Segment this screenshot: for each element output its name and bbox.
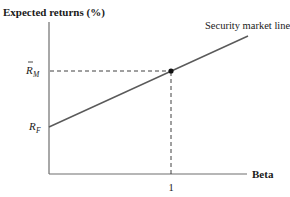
y-axis-title: Expected returns (%)	[3, 6, 105, 19]
rf-label: R F	[28, 120, 41, 135]
sml-chart: Expected returns (%) Security market lin…	[0, 0, 290, 197]
rm-sub: M	[32, 70, 40, 79]
sml-label: Security market line	[205, 20, 290, 31]
market-portfolio-point	[168, 68, 173, 73]
rf-sub: F	[35, 126, 41, 135]
x-tick-1: 1	[169, 182, 174, 193]
rm-label: R M	[25, 62, 40, 79]
security-market-line	[49, 36, 248, 127]
x-axis-title: Beta	[252, 168, 274, 180]
rm-main: R	[25, 64, 33, 76]
rf-main: R	[28, 120, 36, 132]
